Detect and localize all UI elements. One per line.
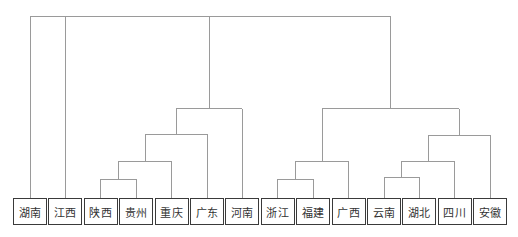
- leaf-box: 广西: [332, 198, 366, 225]
- leaf-label: 广西: [337, 204, 360, 220]
- leaf-box: 河南: [225, 198, 259, 225]
- leaf-label: 河南: [231, 204, 254, 220]
- leaf-label: 陕西: [89, 204, 112, 220]
- leaf-label: 重庆: [160, 204, 183, 220]
- leaf-box: 贵州: [119, 198, 153, 225]
- leaf-label: 江西: [54, 204, 77, 220]
- leaf-label: 云南: [373, 204, 396, 220]
- leaf-box: 安徽: [473, 198, 507, 225]
- leaf-box: 江西: [48, 198, 82, 225]
- leaf-label: 福建: [302, 204, 325, 220]
- leaf-label: 湖南: [19, 204, 42, 220]
- leaf-label: 浙江: [266, 204, 289, 220]
- leaf-box: 重庆: [155, 198, 189, 225]
- leaf-box: 广东: [190, 198, 224, 225]
- leaf-box: 四川: [438, 198, 472, 225]
- dendrogram: 湖南江西陕西贵州重庆广东河南浙江福建广西云南湖北四川安徽: [0, 0, 518, 237]
- leaf-box: 湖北: [402, 198, 436, 225]
- leaf-box: 福建: [296, 198, 330, 225]
- leaf-label: 四川: [443, 204, 466, 220]
- leaf-box: 陕西: [84, 198, 118, 225]
- leaf-label: 广东: [196, 204, 219, 220]
- leaf-label: 湖北: [408, 204, 431, 220]
- leaf-label: 贵州: [125, 204, 148, 220]
- leaf-box: 湖南: [13, 198, 47, 225]
- leaf-label: 安徽: [479, 204, 502, 220]
- leaf-box: 浙江: [261, 198, 295, 225]
- leaf-box: 云南: [367, 198, 401, 225]
